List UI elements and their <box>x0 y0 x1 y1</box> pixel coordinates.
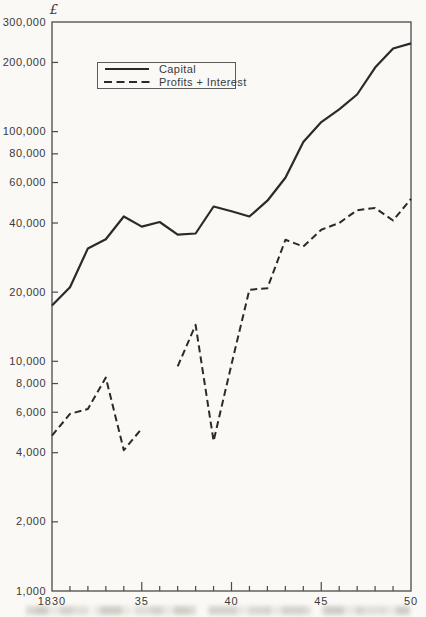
legend-box: Capital Profits + Interest <box>97 62 236 89</box>
legend-label-profits: Profits + Interest <box>159 76 247 88</box>
legend-label-capital: Capital <box>159 63 196 75</box>
y-tick-label: 80,000 <box>9 147 46 159</box>
dashed-line-swatch <box>104 79 150 85</box>
solid-line-swatch <box>104 66 150 72</box>
y-tick-label: 100,000 <box>3 125 46 137</box>
y-tick-label: 4,000 <box>16 446 46 458</box>
y-tick-label: 60,000 <box>9 176 46 188</box>
page-showthrough-text <box>26 606 410 615</box>
y-tick-label: 6,000 <box>16 406 46 418</box>
y-tick-label: 2,000 <box>16 515 46 527</box>
legend-item-profits: Profits + Interest <box>104 76 235 88</box>
y-tick-label: 8,000 <box>16 377 46 389</box>
legend-item-capital: Capital <box>104 63 235 75</box>
y-tick-label: 300,000 <box>3 16 46 28</box>
y-axis-unit-label: £ <box>44 2 64 17</box>
y-tick-label: 20,000 <box>9 286 46 298</box>
log-line-chart: 300,000200,000100,00080,00060,00040,0002… <box>0 0 426 617</box>
plot-frame <box>52 22 411 591</box>
profits-interest-line <box>52 199 411 450</box>
scanned-book-chart-page: 300,000200,000100,00080,00060,00040,0002… <box>0 0 426 617</box>
y-tick-label: 200,000 <box>3 56 46 68</box>
y-tick-label: 40,000 <box>9 217 46 229</box>
y-tick-label: 10,000 <box>9 355 46 367</box>
